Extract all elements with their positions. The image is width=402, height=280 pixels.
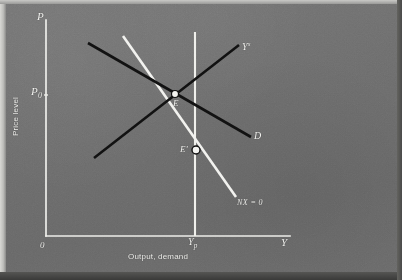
ys-superscript: s xyxy=(248,40,251,48)
point-E-prime-label: E' xyxy=(180,144,188,154)
x-axis-right-label: Y xyxy=(281,236,287,248)
diagram-canvas xyxy=(0,0,402,280)
y-axis-title: Price level xyxy=(11,86,20,148)
demand-curve-label: D xyxy=(254,130,261,141)
origin-label: 0 xyxy=(40,240,45,250)
point-E-prime-marker xyxy=(192,146,200,154)
p0-subscript: 0 xyxy=(38,91,42,100)
aggregate-demand-curve xyxy=(88,43,251,137)
point-E-label: E xyxy=(173,98,179,108)
plate-border-right xyxy=(397,0,402,280)
yp-subscript: p xyxy=(194,242,198,250)
point-E-marker xyxy=(172,91,179,98)
x-axis-title: Output, demand xyxy=(128,252,188,261)
y-axis-top-label: P xyxy=(37,10,44,22)
net-exports-curve-label: NX = 0 xyxy=(237,198,263,207)
y-axis-p0-label: P0 xyxy=(31,85,42,100)
x-axis-yp-label: Yp xyxy=(188,236,198,250)
p0-base: P xyxy=(31,85,38,97)
plate-border-left xyxy=(0,0,6,280)
economics-diagram-figure: P P0 Price level 0 Yp Y Output, demand Y… xyxy=(0,0,402,280)
plate-border-top xyxy=(0,0,402,4)
supply-curve-label: Ys xyxy=(242,40,251,52)
aggregate-supply-curve xyxy=(94,45,239,158)
plate-border-bottom xyxy=(0,272,402,280)
